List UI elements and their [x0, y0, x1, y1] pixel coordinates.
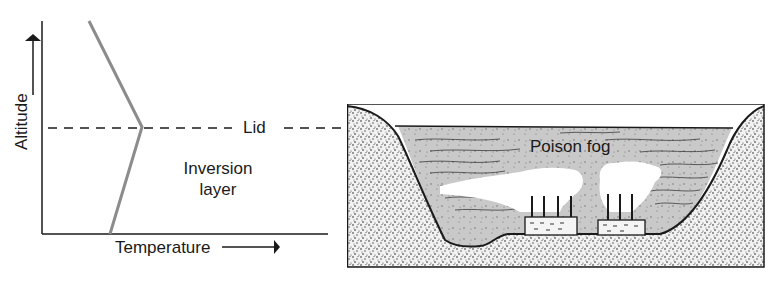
- inversion-label-line1: Inversion: [173, 158, 263, 179]
- temperature-arrow-head-icon: [274, 240, 280, 254]
- altitude-axis-label: Altitude: [13, 93, 30, 150]
- inversion-label-line2: layer: [173, 179, 263, 200]
- lid-label: Lid: [243, 119, 266, 136]
- temperature-altitude-graph: [25, 21, 342, 254]
- inversion-layer-label: Inversion layer: [173, 158, 263, 200]
- valley-diagram: [347, 104, 764, 267]
- factory-left: [525, 217, 577, 235]
- factory-right: [598, 220, 645, 235]
- temperature-axis-label: Temperature: [115, 239, 210, 256]
- smog-inversion-figure: Altitude Lid Inversion layer Temperature…: [0, 0, 780, 283]
- altitude-arrow-head-icon: [25, 34, 41, 41]
- poison-fog-label: Poison fog: [530, 138, 610, 155]
